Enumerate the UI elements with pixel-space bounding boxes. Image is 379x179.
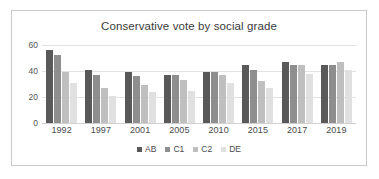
x-tick-label: 1992 xyxy=(42,125,81,139)
legend-label: DE xyxy=(229,144,241,154)
bar xyxy=(172,75,179,123)
legend-label: C2 xyxy=(201,144,212,154)
bar-group xyxy=(317,45,356,123)
bar-group xyxy=(160,45,199,123)
bar xyxy=(125,72,132,123)
x-tick-label: 2015 xyxy=(238,125,277,139)
legend-item-de[interactable]: DE xyxy=(221,144,241,154)
bar xyxy=(203,72,210,123)
y-tick-label: 40 xyxy=(16,66,38,76)
bar-group xyxy=(238,45,277,123)
bar xyxy=(109,96,116,123)
bar xyxy=(54,55,61,123)
y-tick-label: 20 xyxy=(16,92,38,102)
y-tick-label: 0 xyxy=(16,118,38,128)
legend-swatch-icon xyxy=(221,147,226,152)
x-axis-tick-labels: 19921997200120052010201520172019 xyxy=(42,125,356,139)
gridline-0 xyxy=(42,123,356,124)
bar xyxy=(329,65,336,124)
bar xyxy=(180,80,187,123)
x-tick-label: 2019 xyxy=(317,125,356,139)
y-tick-label: 60 xyxy=(16,40,38,50)
legend-swatch-icon xyxy=(193,147,198,152)
legend-item-c2[interactable]: C2 xyxy=(193,144,212,154)
bar xyxy=(298,65,305,124)
x-tick-label: 2005 xyxy=(160,125,199,139)
bar xyxy=(46,50,53,123)
bar xyxy=(337,62,344,123)
legend-label: AB xyxy=(145,144,156,154)
bar-group xyxy=(199,45,238,123)
bar xyxy=(227,83,234,123)
x-tick-label: 1997 xyxy=(81,125,120,139)
bar xyxy=(321,65,328,124)
bar xyxy=(219,75,226,123)
bar-group xyxy=(278,45,317,123)
x-tick-label: 2017 xyxy=(278,125,317,139)
bar xyxy=(290,65,297,124)
x-tick-label: 2010 xyxy=(199,125,238,139)
chart-legend: ABC1C2DE xyxy=(12,144,366,154)
bar xyxy=(141,85,148,123)
bar xyxy=(242,65,249,124)
bar xyxy=(62,72,69,123)
bar xyxy=(211,72,218,123)
bar xyxy=(149,92,156,123)
bar xyxy=(101,88,108,123)
bar xyxy=(93,75,100,123)
chart-container: Conservative vote by social grade 020406… xyxy=(11,10,367,166)
legend-item-ab[interactable]: AB xyxy=(137,144,156,154)
bar xyxy=(266,88,273,123)
bar-groups xyxy=(42,45,356,123)
bar xyxy=(164,75,171,123)
bar xyxy=(250,70,257,123)
bar xyxy=(133,76,140,123)
plot-area: 0204060 xyxy=(42,45,356,123)
bar xyxy=(85,70,92,123)
bar xyxy=(282,62,289,123)
bar xyxy=(306,74,313,123)
legend-swatch-icon xyxy=(165,147,170,152)
x-tick-label: 2001 xyxy=(121,125,160,139)
bar xyxy=(345,70,352,123)
chart-title: Conservative vote by social grade xyxy=(12,20,366,32)
bar-group xyxy=(121,45,160,123)
legend-swatch-icon xyxy=(137,147,142,152)
bar-group xyxy=(81,45,120,123)
bar xyxy=(70,83,77,123)
bar xyxy=(188,91,195,124)
legend-label: C1 xyxy=(173,144,184,154)
legend-item-c1[interactable]: C1 xyxy=(165,144,184,154)
bar xyxy=(258,81,265,123)
bar-group xyxy=(42,45,81,123)
